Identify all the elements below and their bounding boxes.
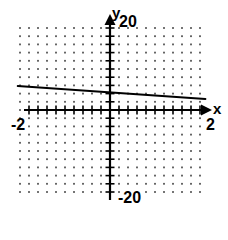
grid-dot: [199, 101, 201, 103]
grid-dot: [100, 150, 102, 152]
grid-dot: [73, 142, 75, 144]
grid-dot: [37, 126, 39, 128]
grid-dot: [82, 44, 84, 46]
grid-dot: [154, 27, 156, 29]
grid-dot: [154, 76, 156, 78]
grid-dot: [37, 85, 39, 87]
grid-dot: [145, 68, 147, 70]
grid-dot: [199, 134, 201, 136]
grid-dot: [37, 158, 39, 160]
grid-dot: [181, 175, 183, 177]
grid-dot: [190, 175, 192, 177]
grid-dot: [199, 76, 201, 78]
grid-dot: [118, 44, 120, 46]
grid-dot: [91, 117, 93, 119]
grid-dot: [82, 150, 84, 152]
grid-dot: [91, 175, 93, 177]
grid-dot: [19, 109, 21, 111]
grid-dot: [136, 35, 138, 37]
grid-dot: [55, 44, 57, 46]
grid-dot: [136, 117, 138, 119]
grid-dot: [91, 158, 93, 160]
grid-dot: [199, 60, 201, 62]
grid-dot: [82, 27, 84, 29]
grid-dot: [163, 93, 165, 95]
grid-dot: [145, 134, 147, 136]
grid-dot: [172, 183, 174, 185]
grid-dot: [190, 76, 192, 78]
grid-dot: [154, 68, 156, 70]
grid-dot: [136, 134, 138, 136]
grid-dot: [145, 101, 147, 103]
y-axis-ticks: [106, 28, 115, 192]
grid-dot: [55, 101, 57, 103]
grid-dot: [64, 167, 66, 169]
grid-dot: [19, 183, 21, 185]
grid-dot: [55, 27, 57, 29]
grid-dot: [163, 150, 165, 152]
grid-dot: [181, 134, 183, 136]
grid-dot: [19, 158, 21, 160]
grid-dot: [64, 60, 66, 62]
grid-dot: [37, 60, 39, 62]
x-max-tick-label: 2: [206, 116, 215, 133]
grid-dot: [163, 126, 165, 128]
grid-dot: [100, 117, 102, 119]
grid-dot: [199, 27, 201, 29]
grid-dot: [100, 142, 102, 144]
grid-dot: [91, 60, 93, 62]
grid-dot: [37, 44, 39, 46]
grid-dot: [73, 126, 75, 128]
grid-dot: [136, 85, 138, 87]
grid-dot: [55, 191, 57, 193]
grid-dot: [181, 68, 183, 70]
grid-dot: [190, 52, 192, 54]
grid-dot: [46, 158, 48, 160]
grid-dot: [100, 35, 102, 37]
grid-dot: [28, 142, 30, 144]
grid-dot: [82, 167, 84, 169]
grid-dot: [154, 117, 156, 119]
grid-dot: [46, 134, 48, 136]
grid-dot: [73, 60, 75, 62]
grid-dot: [154, 191, 156, 193]
grid-dot: [181, 191, 183, 193]
grid-dot: [28, 167, 30, 169]
grid-dot: [64, 35, 66, 37]
grid-dot: [55, 175, 57, 177]
grid-dot: [163, 117, 165, 119]
grid-dot: [55, 60, 57, 62]
grid-dot: [91, 44, 93, 46]
grid-dot: [172, 52, 174, 54]
grid-dot: [64, 93, 66, 95]
grid-dot: [118, 126, 120, 128]
grid-dot: [82, 35, 84, 37]
grid-dot: [172, 117, 174, 119]
grid-dot: [118, 175, 120, 177]
grid-dot: [91, 68, 93, 70]
grid-dot: [127, 35, 129, 37]
grid-dot: [136, 76, 138, 78]
grid-dot: [100, 68, 102, 70]
grid-dot: [82, 126, 84, 128]
grid-dot: [28, 191, 30, 193]
grid-dot: [19, 175, 21, 177]
grid-dot: [163, 175, 165, 177]
grid-dot: [181, 52, 183, 54]
grid-dot: [19, 52, 21, 54]
grid-dot: [190, 167, 192, 169]
grid-dot: [199, 142, 201, 144]
grid-dot: [127, 60, 129, 62]
grid-dot: [127, 150, 129, 152]
grid-dot: [73, 101, 75, 103]
grid-dot: [55, 150, 57, 152]
grid-dot: [19, 68, 21, 70]
grid-dot: [145, 158, 147, 160]
grid-dot: [28, 35, 30, 37]
grid-dot: [91, 35, 93, 37]
grid-dot: [55, 142, 57, 144]
grid-dot: [136, 175, 138, 177]
grid-dot: [46, 52, 48, 54]
grid-dot: [28, 93, 30, 95]
grid-dot: [136, 183, 138, 185]
